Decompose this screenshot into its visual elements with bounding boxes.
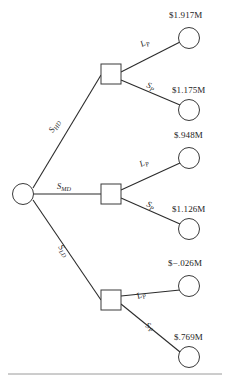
trunk-branch-low-demand xyxy=(33,200,101,300)
decision-node-low-demand[interactable] xyxy=(101,290,121,310)
sub-branch-medium-demand-large-plant xyxy=(121,163,180,190)
decision-node-medium-demand[interactable] xyxy=(101,184,121,204)
decision-tree-canvas: SHD SMD SLD LP SP LP SP LP SP $1.917M $ xyxy=(0,0,230,383)
root-chance-node[interactable] xyxy=(13,184,34,205)
sub-branch-low-demand-large-plant xyxy=(121,290,180,296)
trunk-branch-high-demand xyxy=(33,75,101,188)
terminal-node-low-demand-small-plant[interactable] xyxy=(179,347,200,368)
sub-branch-high-demand-large-plant xyxy=(121,42,180,72)
terminal-node-medium-demand-large-plant[interactable] xyxy=(179,148,200,169)
trunk-label-high-demand: SHD xyxy=(46,117,62,134)
decision-node-high-demand[interactable] xyxy=(101,64,121,84)
terminal-node-low-demand-large-plant[interactable] xyxy=(179,276,200,297)
payoff-low-demand-small-plant: $.769M xyxy=(174,332,203,342)
sub-label-low-demand-large-plant: LP xyxy=(134,288,147,302)
payoff-high-demand-large-plant: $1.917M xyxy=(169,10,202,20)
sub-label-high-demand-large-plant: LP xyxy=(137,36,151,50)
sub-label-medium-demand-large-plant: LP xyxy=(137,156,150,170)
payoff-medium-demand-large-plant: $.948M xyxy=(174,130,203,140)
payoff-medium-demand-small-plant: $1.126M xyxy=(172,204,205,214)
sub-label-medium-demand-small-plant: SP xyxy=(145,199,157,212)
decision-tree-figure: SHD SMD SLD LP SP LP SP LP SP $1.917M $ xyxy=(0,0,230,383)
terminal-node-high-demand-large-plant[interactable] xyxy=(179,28,200,49)
terminal-node-high-demand-small-plant[interactable] xyxy=(179,100,200,121)
trunk-label-medium-demand: SMD xyxy=(57,181,71,192)
payoff-high-demand-small-plant: $1.175M xyxy=(172,85,205,95)
payoff-low-demand-large-plant: $−.026M xyxy=(168,258,202,268)
trunk-label-low-demand: SLD xyxy=(56,242,72,259)
terminal-node-medium-demand-small-plant[interactable] xyxy=(179,219,200,240)
